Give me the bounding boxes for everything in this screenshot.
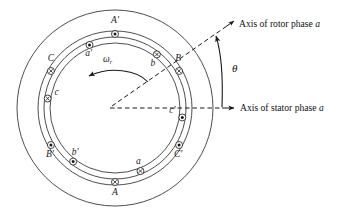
stator-conductor-group: A'BC'AB'C bbox=[46, 15, 183, 197]
stator-axis-label-phase: a bbox=[319, 102, 324, 113]
omega-rotation-group bbox=[89, 70, 148, 82]
current-out-dot-icon bbox=[178, 144, 181, 147]
rotor-axis-line bbox=[112, 28, 224, 106]
machine-cross-section-diagram: A'BC'AB'C a'bc'ab'c Axis of rotor phase … bbox=[0, 0, 358, 217]
rotor-conductor: a' bbox=[85, 41, 93, 58]
omega-subscript: r bbox=[110, 59, 113, 65]
stator-conductor: C bbox=[47, 53, 54, 75]
rotor-axis-label-phase: a bbox=[315, 18, 320, 29]
stator-conductor: B' bbox=[46, 142, 55, 160]
rotor-inner-circle bbox=[50, 43, 180, 173]
stator-outer-circle bbox=[17, 10, 213, 206]
omega-label: ωr bbox=[103, 54, 113, 65]
current-out-dot-icon bbox=[88, 43, 91, 46]
rotor-conductor-label: c' bbox=[169, 105, 176, 115]
rotor-axis-arrow bbox=[224, 21, 234, 28]
rotor-conductor-label: a' bbox=[85, 48, 93, 58]
rotor-conductor: a bbox=[136, 156, 144, 175]
rotor-conductor-label: c bbox=[55, 87, 60, 97]
current-out-dot-icon bbox=[49, 144, 52, 147]
current-out-dot-icon bbox=[181, 116, 184, 119]
stator-conductor-label: B' bbox=[46, 149, 55, 159]
figure-canvas: A'BC'AB'C a'bc'ab'c Axis of rotor phase … bbox=[0, 0, 358, 217]
theta-arc-arrow bbox=[216, 36, 222, 107]
rotor-axis-group bbox=[112, 21, 234, 106]
theta-angle-group bbox=[216, 36, 222, 107]
stator-conductor: A' bbox=[110, 15, 120, 38]
stator-conductor: C' bbox=[174, 142, 183, 160]
theta-label: θ bbox=[232, 62, 238, 74]
stator-conductor-label: A bbox=[111, 187, 118, 197]
stator-conductor-label: C' bbox=[174, 149, 183, 159]
rotor-conductor: b' bbox=[70, 147, 80, 166]
stator-axis-label: Axis of stator phase a bbox=[240, 102, 324, 113]
stator-conductor-label: A' bbox=[110, 15, 120, 25]
rotor-axis-label: Axis of rotor phase a bbox=[239, 18, 320, 29]
stator-conductor-label: C bbox=[48, 53, 55, 63]
stator-conductor: B bbox=[175, 53, 182, 75]
stator-conductor: A bbox=[111, 179, 118, 198]
rotor-rotation-arc-arrow bbox=[89, 70, 148, 82]
rotor-conductor-label: a bbox=[136, 156, 141, 166]
rotor-conductor-label: b bbox=[150, 58, 155, 68]
axis-label-group: Axis of rotor phase a Axis of stator pha… bbox=[103, 18, 324, 113]
rotor-conductor-label: b' bbox=[72, 147, 80, 157]
current-out-dot-icon bbox=[114, 33, 117, 36]
ring-group bbox=[17, 10, 213, 206]
current-out-dot-icon bbox=[72, 160, 75, 163]
